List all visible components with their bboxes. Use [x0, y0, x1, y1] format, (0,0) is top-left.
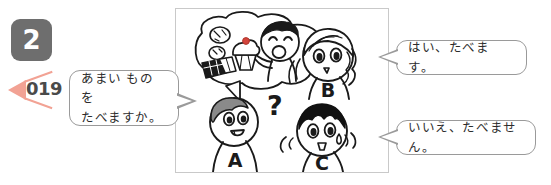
svg-text:B: B: [321, 79, 335, 101]
audio-track-number: 019: [26, 78, 62, 99]
svg-text:A: A: [228, 149, 243, 171]
exercise-number-badge: 2: [11, 19, 52, 61]
svg-text:?: ?: [267, 90, 283, 121]
exercise-number-label: 2: [11, 19, 52, 61]
svg-text:C: C: [315, 152, 329, 172]
question-speech-bubble: あまい ものを たべますか。: [69, 70, 179, 126]
question-bubble-tail-fill: [175, 95, 192, 107]
answer-yes-bubble-text: はい、たべます。: [397, 41, 526, 74]
conversation-illustration-panel: A ?: [175, 8, 389, 173]
answer-yes-speech-bubble: はい、たべます。: [396, 40, 527, 75]
answer-no-bubble-text: いいえ、たべません。: [397, 121, 535, 154]
audio-track-marker[interactable]: 019: [8, 78, 70, 102]
page-root: 2 019: [0, 0, 551, 185]
answer-no-bubble-tail-fill: [381, 131, 398, 143]
answer-no-speech-bubble: いいえ、たべません。: [396, 120, 536, 155]
answer-yes-bubble-tail-fill: [381, 51, 398, 63]
illustration-drawing: A ?: [176, 9, 388, 172]
question-bubble-text: あまい ものを たべますか。: [70, 71, 178, 125]
